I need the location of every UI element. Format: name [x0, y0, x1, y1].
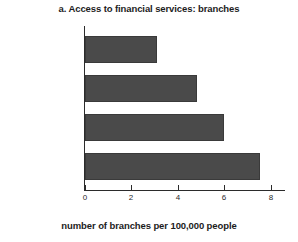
x-tick [85, 185, 86, 191]
x-tick [271, 185, 272, 191]
x-tick [178, 185, 179, 191]
chart-title: a. Access to financial services: branche… [0, 3, 298, 14]
bar-latin-america [85, 153, 260, 180]
bar-south-asia [85, 75, 197, 102]
x-tick-label: 6 [212, 193, 236, 202]
bar-sub-saharan-africa [85, 36, 157, 63]
x-tick-label: 0 [73, 193, 97, 202]
x-tick-label: 4 [166, 193, 190, 202]
x-tick [131, 185, 132, 191]
plot-area: Sub-Saharan Africa South Asia Southeast … [85, 26, 271, 190]
bar-southeast-asia [85, 114, 224, 141]
x-tick [224, 185, 225, 191]
x-tick-label: 8 [259, 193, 283, 202]
chart-figure: a. Access to financial services: branche… [0, 0, 298, 242]
x-tick-label: 2 [119, 193, 143, 202]
x-axis-title: number of branches per 100,000 people [0, 220, 298, 231]
x-axis-line [85, 190, 285, 191]
